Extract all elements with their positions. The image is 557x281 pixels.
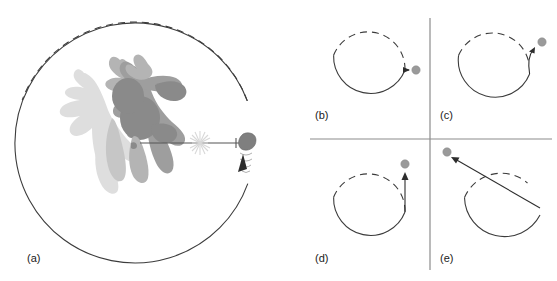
panel-b: (b) [315,32,420,121]
panel-e-circle-solid [465,198,541,237]
direction-arrow [238,154,247,172]
panel-a: (a) [15,22,256,264]
panel-d: (d) [315,160,409,264]
panel-b-circle-solid [334,55,405,93]
panel-c: (c) [440,33,546,121]
release-starburst-icon [190,131,210,155]
panel-b-ball [412,66,420,74]
panel-b-label: (b) [315,109,328,121]
panel-c-trajectory-curve [529,50,533,74]
panel-d-circle-dashed [334,174,405,212]
panel-d-ball [401,160,409,168]
physics-figure-container: (a) (b) (c) [0,0,557,281]
panel-b-circle-dashed [334,32,405,70]
panel-c-arrowhead [529,47,535,54]
panel-e-ball [443,148,451,156]
skater-figure [105,54,186,183]
panel-d-arrowhead [402,172,409,180]
panel-d-label: (d) [315,252,328,264]
panel-a-label: (a) [27,252,40,264]
panel-e-label: (e) [440,252,453,264]
panel-b-arrowhead [403,67,410,73]
panel-c-circle-dashed [459,33,529,64]
panel-d-circle-solid [334,197,405,235]
panel-e-trajectory-line [455,159,540,208]
panel-c-ball [538,38,546,46]
puck [236,133,256,150]
physics-figure-svg: (a) (b) (c) [0,0,557,281]
panel-e-circle-dashed [465,173,528,197]
panel-c-label: (c) [440,109,453,121]
panel-c-circle-solid [458,55,529,97]
panel-e: (e) [440,148,540,264]
